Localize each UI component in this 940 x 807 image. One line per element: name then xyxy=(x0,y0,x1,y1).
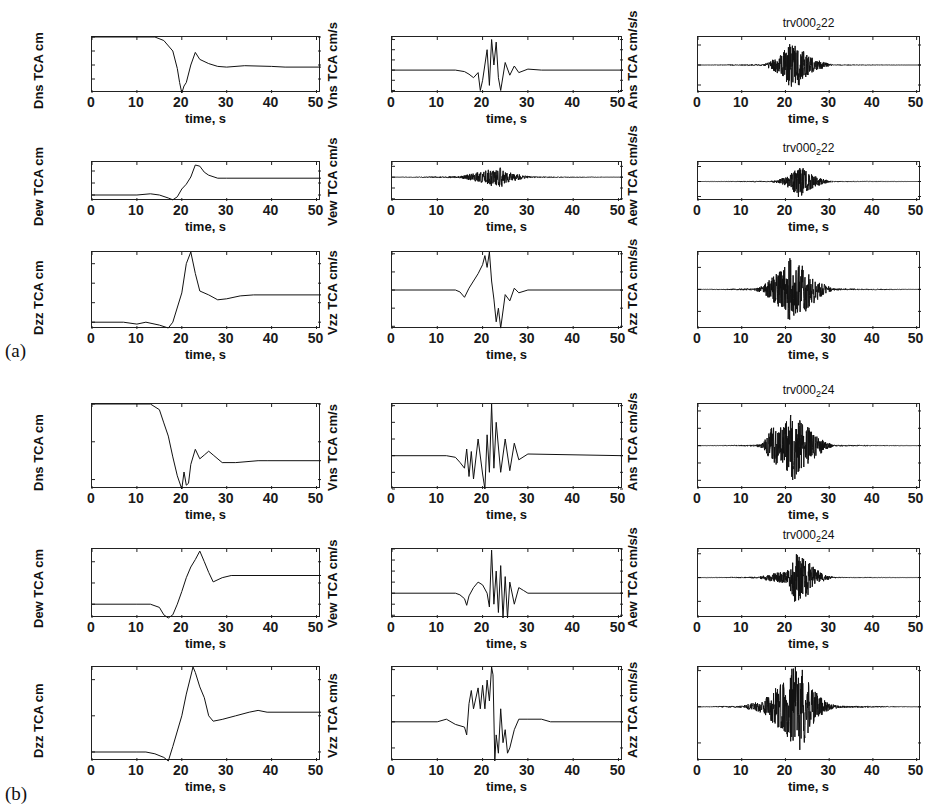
x-tick-label: 40 xyxy=(564,331,580,345)
y-axis-label: Dew TCA cm xyxy=(31,147,46,226)
x-tick-label: 40 xyxy=(263,203,279,217)
y-axis-label: Vns TCA cm/s xyxy=(325,404,340,491)
x-tick-label: 10 xyxy=(428,95,444,109)
x-tick-label: 50 xyxy=(908,620,924,634)
plot-area xyxy=(91,251,320,328)
x-tick-label: 0 xyxy=(87,491,95,505)
subplot-title: trv000222 xyxy=(783,16,835,32)
x-tick-label: 20 xyxy=(173,331,189,345)
x-tick-label: 30 xyxy=(820,620,836,634)
x-tick-label: 0 xyxy=(87,331,95,345)
x-tick-label: 50 xyxy=(610,203,626,217)
x-tick-label: 10 xyxy=(733,491,749,505)
x-tick-label: 10 xyxy=(733,763,749,777)
x-axis-label: time, s xyxy=(788,507,829,522)
x-tick-label: 50 xyxy=(308,620,324,634)
x-axis-label: time, s xyxy=(486,779,527,794)
y-axis-label: Ans TCA cm/s/s xyxy=(625,11,640,110)
x-tick-label: 50 xyxy=(308,491,324,505)
plot-area xyxy=(391,161,622,200)
y-axis-label: Dzz TCA cm xyxy=(31,260,46,335)
plot-area xyxy=(91,36,320,92)
x-tick-label: 0 xyxy=(87,95,95,109)
x-tick-label: 10 xyxy=(428,620,444,634)
x-tick-label: 50 xyxy=(908,491,924,505)
data-line xyxy=(92,252,321,329)
x-tick-label: 0 xyxy=(87,203,95,217)
x-axis-label: time, s xyxy=(185,636,226,651)
x-axis-label: time, s xyxy=(788,636,829,651)
x-tick-label: 20 xyxy=(173,620,189,634)
x-tick-label: 0 xyxy=(387,491,395,505)
plot-area xyxy=(697,548,920,617)
x-tick-label: 40 xyxy=(864,331,880,345)
x-axis-label: time, s xyxy=(185,507,226,522)
x-tick-label: 40 xyxy=(263,620,279,634)
y-axis-label: Ans TCA cm/s/s xyxy=(625,392,640,491)
x-tick-label: 30 xyxy=(218,620,234,634)
x-tick-label: 0 xyxy=(693,491,701,505)
y-axis-label: Dns TCA cm xyxy=(31,32,46,109)
data-line xyxy=(392,162,623,201)
x-axis-label: time, s xyxy=(185,779,226,794)
x-tick-label: 20 xyxy=(777,763,793,777)
x-tick-label: 30 xyxy=(519,203,535,217)
x-tick-label: 10 xyxy=(733,331,749,345)
x-tick-label: 10 xyxy=(428,763,444,777)
x-tick-label: 0 xyxy=(693,331,701,345)
x-axis-label: time, s xyxy=(185,219,226,234)
x-tick-label: 30 xyxy=(820,203,836,217)
y-axis-label: Vew TCA cm/s xyxy=(325,539,340,627)
x-tick-label: 40 xyxy=(564,95,580,109)
plot-area xyxy=(697,251,920,328)
x-tick-label: 0 xyxy=(387,203,395,217)
x-tick-label: 30 xyxy=(218,95,234,109)
data-line xyxy=(698,162,921,201)
plot-area xyxy=(91,403,320,488)
plot-area xyxy=(391,548,622,617)
x-tick-label: 10 xyxy=(733,620,749,634)
x-tick-label: 40 xyxy=(564,491,580,505)
x-tick-label: 30 xyxy=(820,331,836,345)
x-tick-label: 0 xyxy=(387,620,395,634)
plot-area xyxy=(391,251,622,328)
plot-area xyxy=(697,36,920,92)
x-tick-label: 20 xyxy=(474,95,490,109)
x-tick-label: 40 xyxy=(263,95,279,109)
plot-area xyxy=(697,161,920,200)
x-tick-label: 30 xyxy=(519,331,535,345)
y-axis-label: Vzz TCA cm/s xyxy=(325,673,340,758)
x-tick-label: 40 xyxy=(864,763,880,777)
x-tick-label: 50 xyxy=(908,203,924,217)
x-tick-label: 20 xyxy=(173,95,189,109)
x-tick-label: 10 xyxy=(428,331,444,345)
x-tick-label: 40 xyxy=(564,763,580,777)
x-tick-label: 0 xyxy=(693,763,701,777)
x-axis-label: time, s xyxy=(788,219,829,234)
data-line xyxy=(698,667,921,761)
x-tick-label: 40 xyxy=(564,620,580,634)
x-tick-label: 20 xyxy=(474,763,490,777)
x-tick-label: 40 xyxy=(263,491,279,505)
plot-area xyxy=(91,666,320,760)
plot-area xyxy=(91,161,320,200)
x-tick-label: 0 xyxy=(87,763,95,777)
data-line xyxy=(92,549,321,618)
y-axis-label: Vzz TCA cm/s xyxy=(325,250,340,335)
subplot-title: trv000224 xyxy=(783,383,835,399)
x-tick-label: 10 xyxy=(128,620,144,634)
x-tick-label: 20 xyxy=(777,491,793,505)
x-tick-label: 40 xyxy=(864,203,880,217)
plot-area xyxy=(91,548,320,617)
data-line xyxy=(92,162,321,201)
section-label-b: (b) xyxy=(5,783,27,805)
x-axis-label: time, s xyxy=(185,111,226,126)
x-tick-label: 20 xyxy=(474,620,490,634)
x-tick-label: 20 xyxy=(777,203,793,217)
x-tick-label: 30 xyxy=(218,763,234,777)
x-axis-label: time, s xyxy=(486,347,527,362)
x-tick-label: 50 xyxy=(610,331,626,345)
x-tick-label: 30 xyxy=(820,491,836,505)
x-tick-label: 50 xyxy=(308,331,324,345)
data-line xyxy=(92,404,321,489)
